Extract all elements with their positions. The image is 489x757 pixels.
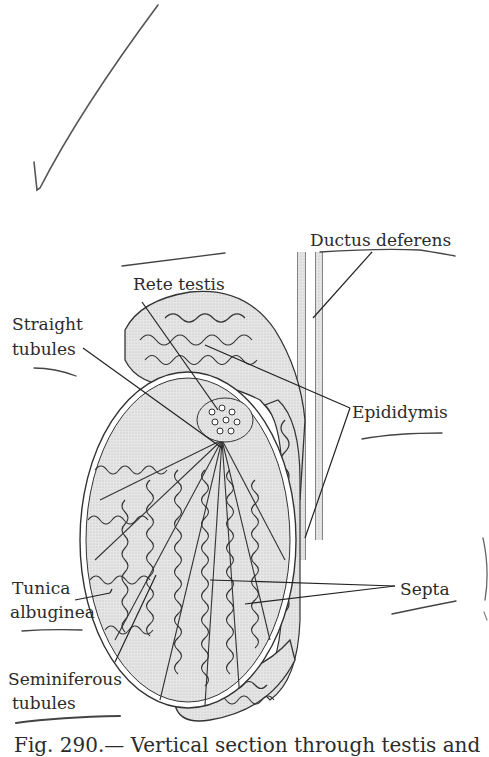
label-ductus-deferens: Ductus deferens — [310, 230, 451, 251]
testis-body-shape — [80, 372, 296, 708]
label-straight-tubules-line2: tubules — [12, 339, 76, 360]
label-seminiferous-tubules-line1: Seminiferous — [8, 669, 122, 690]
label-tunica-albuginea-line2: albuginea — [10, 602, 95, 623]
underline-tunica-albuginea — [22, 630, 82, 631]
underline-seminiferous-tubules — [16, 716, 120, 723]
label-tunica-albuginea-line1: Tunica — [12, 578, 70, 599]
label-rete-testis: Rete testis — [133, 274, 225, 295]
pen-mark-right-small — [484, 612, 487, 620]
label-septa: Septa — [400, 579, 450, 600]
pen-mark-right — [483, 538, 487, 600]
label-epididymis: Epididymis — [352, 402, 448, 423]
figure-caption: Fig. 290.— Vertical section through test… — [14, 733, 480, 757]
label-seminiferous-tubules-line2: tubules — [12, 693, 76, 714]
label-straight-tubules-line1: Straight — [12, 314, 83, 335]
underline-straight-tubules — [34, 368, 76, 376]
checkmark-icon — [34, 5, 158, 190]
underline-septa — [392, 601, 456, 614]
underline-rete-testis — [122, 253, 225, 266]
underline-epididymis — [362, 433, 442, 439]
